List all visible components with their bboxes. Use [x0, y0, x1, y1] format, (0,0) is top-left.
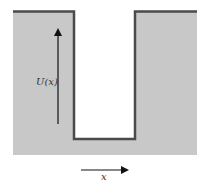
potential-label: U(x): [36, 76, 58, 87]
potential-well-diagram: U(x) x: [0, 0, 204, 182]
position-label: x: [101, 171, 107, 182]
well-interior: [74, 11, 135, 139]
